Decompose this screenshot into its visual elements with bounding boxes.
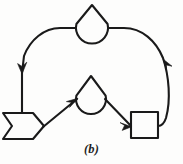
top-cone-node-shape [76,5,108,44]
edge-square-diagonal [105,99,132,130]
figure-container: (b) [0,0,183,164]
right-square-node [131,112,158,138]
edge-top-left-arc-path [22,28,76,113]
edge-top-left-arc [18,28,76,113]
flow-diagram-canvas [0,0,183,164]
top-cone-node [76,5,108,44]
left-banner-node-shape [3,113,44,139]
middle-cone-node [76,76,106,114]
middle-cone-node-shape [76,76,106,114]
left-banner-node [3,113,44,139]
figure-caption: (b) [0,142,183,157]
edge-banner-diagonal [43,98,78,127]
right-square-node-shape [131,112,158,138]
edge-square-diagonal-path [105,99,131,126]
